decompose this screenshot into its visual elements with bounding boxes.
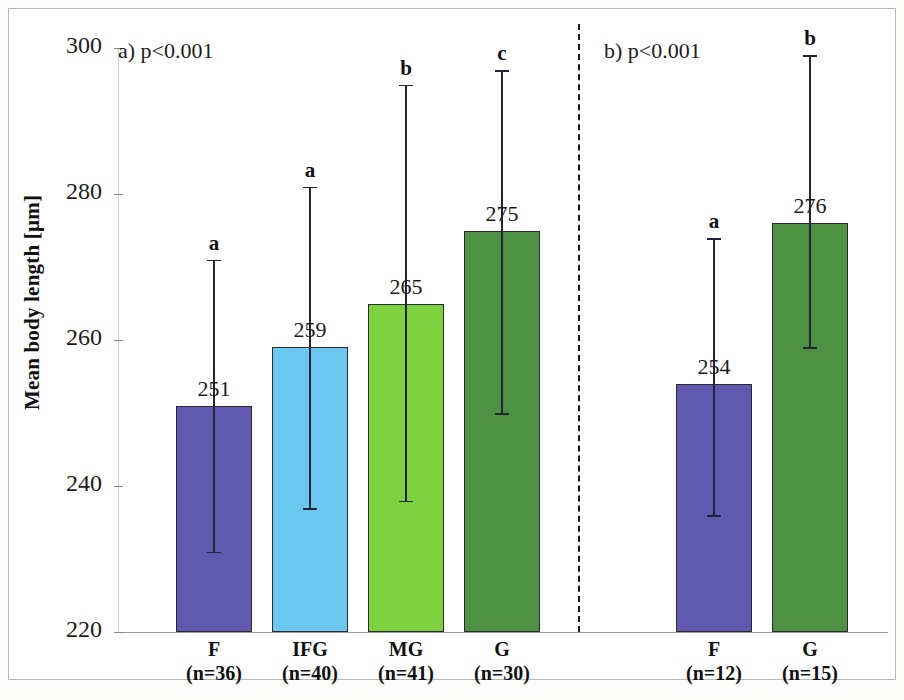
significance-letter: c (480, 41, 524, 66)
significance-letter: a (192, 231, 236, 256)
error-bar-cap-bottom (495, 413, 509, 415)
x-category-name: F (708, 638, 720, 660)
bar-value-label: 265 (354, 274, 458, 300)
error-bar-cap-top (495, 70, 509, 72)
significance-letter: a (288, 158, 332, 183)
significance-letter: a (692, 209, 736, 234)
y-axis-tick-label: 240 (44, 470, 102, 497)
plot-canvas: Mean body length [µm] 220240260280300 a)… (0, 0, 904, 700)
panel-b-note: b) p<0.001 (604, 38, 701, 64)
significance-letter: b (788, 26, 832, 51)
y-axis-label: Mean body length [µm] (20, 153, 45, 453)
panel-divider (578, 24, 580, 632)
error-bar-cap-bottom (707, 515, 721, 517)
error-bar-cap-top (399, 85, 413, 87)
x-category-sample-size: (n=15) (754, 662, 866, 686)
error-bar-cap-bottom (803, 347, 817, 349)
x-category-name: IFG (292, 638, 328, 660)
x-category-sample-size: (n=30) (446, 662, 558, 686)
bar-value-label: 251 (162, 376, 266, 402)
bar-value-label: 259 (258, 317, 362, 343)
y-axis-tick-mark (114, 486, 123, 487)
error-bar-stem (309, 187, 311, 508)
x-axis-category-label: G(n=15) (754, 638, 866, 685)
bar-value-label: 276 (758, 193, 862, 219)
error-bar-cap-top (803, 55, 817, 57)
y-axis-tick-label: 220 (44, 616, 102, 643)
chart-root: Mean body length [µm] 220240260280300 a)… (0, 0, 904, 700)
significance-letter: b (384, 56, 428, 81)
error-bar-stem (213, 260, 215, 552)
y-axis-tick-mark (114, 632, 123, 633)
y-axis-tick-label: 260 (44, 324, 102, 351)
error-bar-cap-top (707, 238, 721, 240)
x-axis-line (118, 632, 888, 633)
y-axis-tick-mark (114, 340, 123, 341)
y-axis-tick-label: 300 (44, 32, 102, 59)
y-axis-tick-mark (114, 194, 123, 195)
error-bar-cap-top (207, 260, 221, 262)
x-axis-category-label: G(n=30) (446, 638, 558, 685)
x-category-name: MG (389, 638, 423, 660)
y-axis-tick-label: 280 (44, 178, 102, 205)
error-bar-cap-bottom (207, 552, 221, 554)
error-bar-cap-top (303, 187, 317, 189)
panel-a-note: a) p<0.001 (118, 38, 214, 64)
bar-value-label: 275 (450, 201, 554, 227)
error-bar-cap-bottom (303, 508, 317, 510)
error-bar-stem (501, 70, 503, 413)
error-bar-cap-bottom (399, 501, 413, 503)
x-category-name: G (494, 638, 510, 660)
x-category-name: F (208, 638, 220, 660)
bar-value-label: 254 (662, 354, 766, 380)
x-category-name: G (802, 638, 818, 660)
